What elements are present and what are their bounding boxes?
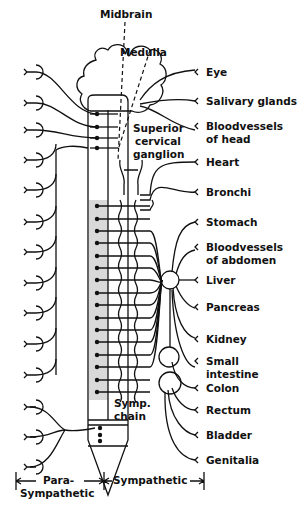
ganglion-icon — [24, 464, 36, 470]
organ-label: of abdomen — [206, 254, 276, 266]
ganglion-label: ganglion — [133, 148, 184, 160]
nucleus-dot — [95, 136, 99, 140]
ganglion-icon — [24, 69, 36, 75]
organ-label: Kidney — [206, 333, 247, 345]
organ-terminal-icon — [195, 385, 198, 391]
nucleus-dot — [98, 426, 102, 430]
superior-mesenteric-ganglion — [159, 347, 179, 367]
para-label: Para- — [43, 474, 74, 486]
organ-terminal-icon — [195, 244, 198, 250]
organ-label: Eye — [206, 66, 227, 78]
sympathetic-label: Sympathetic — [113, 474, 187, 486]
inferior-mesenteric-ganglion — [159, 372, 181, 394]
ganglion-icon — [24, 434, 36, 440]
organ-label: Colon — [206, 382, 239, 394]
organ-label: Bloodvessels — [206, 241, 283, 253]
superior-cervical-ganglion — [120, 160, 143, 195]
organ-label: of head — [206, 133, 251, 145]
sympathetic-chain-right — [135, 200, 138, 402]
organ-terminal-icon — [195, 432, 198, 438]
organ-label: Small — [206, 355, 239, 367]
organ-terminal-icon — [195, 159, 198, 165]
nucleus-dot — [98, 433, 102, 437]
parasympathetic-label: Sympathetic — [20, 487, 94, 499]
nucleus-dot — [95, 112, 99, 116]
organ-terminal-icon — [195, 219, 198, 225]
organ-terminal-icon — [195, 457, 198, 463]
ganglion-icon — [36, 400, 43, 414]
ganglion-icon — [24, 310, 36, 316]
ganglion-icon — [24, 100, 36, 106]
organ-label: Liver — [206, 274, 236, 286]
ganglion-icon — [24, 404, 36, 410]
organ-terminal-icon — [195, 304, 198, 310]
nucleus-dot — [95, 125, 99, 129]
organ-terminal-icon — [195, 358, 198, 364]
organ-label: Pancreas — [206, 301, 260, 313]
ganglion-icon — [24, 187, 36, 193]
organ-label: Bloodvessels — [206, 120, 283, 132]
organ-label: Rectum — [206, 404, 251, 416]
ganglion-icon — [24, 157, 36, 163]
ganglion-icon — [24, 249, 36, 255]
nucleus-dot — [95, 146, 99, 150]
organ-terminal-icon — [195, 98, 198, 104]
organ-terminal-icon — [195, 407, 198, 413]
organ-label: Stomach — [206, 216, 258, 228]
midbrain-label: Midbrain — [100, 8, 152, 20]
medulla-label: Medulla — [120, 46, 167, 58]
ganglion-icon — [36, 460, 43, 474]
organ-label: Salivary glands — [206, 95, 297, 107]
ganglion-icon — [24, 219, 36, 225]
sympathetic-chain-left — [119, 200, 122, 402]
symp-label: Symp. — [114, 397, 151, 409]
organ-terminal-icon — [195, 277, 198, 283]
nucleus-dot — [98, 439, 102, 443]
organ-terminal-icon — [195, 123, 198, 129]
organ-terminal-icon — [195, 336, 198, 342]
organ-label: Bronchi — [206, 186, 251, 198]
organ-terminal-icon — [195, 69, 198, 75]
cervical-label: cervical — [135, 135, 181, 147]
organ-label: Genitalia — [206, 454, 259, 466]
organ-label: Heart — [206, 156, 239, 168]
autonomic-nervous-system-diagram: EyeSalivary glandsBloodvesselsof headHea… — [0, 0, 302, 507]
ganglion-icon — [24, 127, 36, 133]
organ-label: intestine — [206, 368, 259, 380]
ganglion-icon — [24, 280, 36, 286]
superior-label: Superior — [133, 122, 185, 134]
anatomy-drawing — [30, 22, 195, 495]
organ-terminal-icon — [195, 189, 198, 195]
ganglion-icon — [24, 341, 36, 347]
chain-label: chain — [114, 410, 146, 422]
ganglion-icon — [24, 372, 36, 378]
organ-label: Bladder — [206, 429, 253, 441]
